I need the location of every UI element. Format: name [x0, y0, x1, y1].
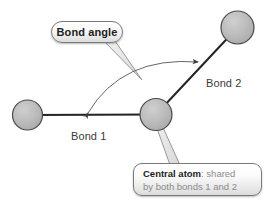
left-terminal-atom: [13, 100, 43, 130]
bond-1-label: Bond 1: [71, 130, 106, 142]
central-atom: [140, 99, 172, 131]
bond-angle-callout-text: Bond angle: [57, 26, 118, 38]
upper-right-terminal-atom: [221, 11, 254, 44]
central-atom-callout-term: Central atom: [143, 168, 201, 179]
bond-angle-diagram: Bond 1 Bond 2 Bond angle Central atom: s…: [0, 0, 272, 200]
bond-2-label: Bond 2: [206, 77, 241, 89]
central-atom-callout-line-2: by both bonds 1 and 2: [143, 180, 237, 193]
bond-angle-callout-tail: [103, 38, 142, 80]
bond-angle-callout: Bond angle: [51, 21, 123, 43]
central-atom-callout-line-1-rest: : shared: [201, 168, 235, 179]
bond-1-line: [28, 115, 157, 116]
bond-2-line: [156, 28, 238, 115]
central-atom-callout-line-1: Central atom: shared: [143, 167, 235, 180]
central-atom-callout: Central atom: shared by both bonds 1 and…: [133, 163, 262, 196]
